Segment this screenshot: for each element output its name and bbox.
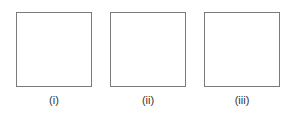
panel-iii: (iii)	[0, 0, 94, 114]
empty-box-iii	[204, 12, 280, 87]
panel-label-ii: (ii)	[110, 93, 186, 107]
panel-label-iii: (iii)	[204, 93, 280, 107]
empty-box-ii	[110, 12, 186, 87]
